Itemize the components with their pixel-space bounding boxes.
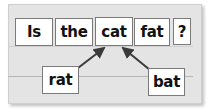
option-label: rat — [49, 71, 73, 89]
arrow-rat-to-cat-icon — [78, 48, 104, 68]
option-label: bat — [153, 73, 180, 91]
option-box-rat: rat — [42, 66, 79, 94]
arrow-bat-to-cat-icon — [123, 48, 150, 70]
option-box-bat: bat — [148, 68, 185, 96]
